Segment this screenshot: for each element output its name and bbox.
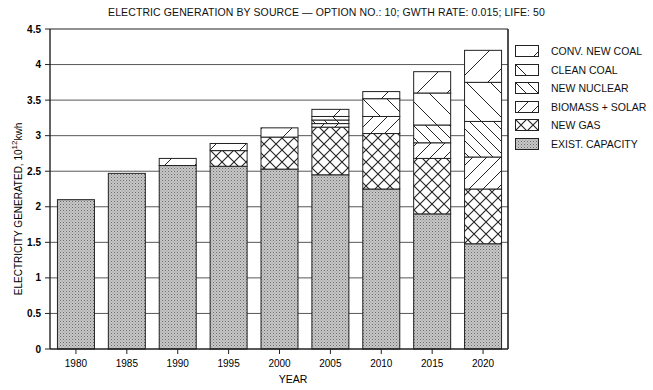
bar-segment <box>465 121 502 157</box>
y-tick-label: 3 <box>35 130 41 141</box>
bar-segment <box>312 124 349 128</box>
bar-segment <box>363 189 400 349</box>
legend-label: CONV. NEW COAL <box>551 45 642 57</box>
bar-segment <box>414 143 451 159</box>
legend-item: CLEAN COAL <box>515 61 653 80</box>
bar-segment <box>57 200 94 349</box>
bar-segment <box>363 99 400 117</box>
x-axis-label: YEAR <box>279 373 308 385</box>
bar-segment <box>414 93 451 125</box>
bar-segment <box>465 50 502 82</box>
bar-segment <box>414 72 451 93</box>
bar-segment <box>465 244 502 349</box>
y-axis-label: ELECTRICITY GENERATED, 1012kwh <box>10 123 24 295</box>
bar-1990 <box>159 158 196 349</box>
x-tick-label: 1995 <box>217 358 240 369</box>
bar-segment <box>210 151 247 167</box>
chart-legend: CONV. NEW COALCLEAN COALNEW NUCLEARBIOMA… <box>515 42 653 153</box>
legend-swatch-icon <box>515 82 539 94</box>
bar-segment <box>108 173 145 349</box>
bar-2000 <box>261 128 298 349</box>
x-tick-label: 1980 <box>65 358 88 369</box>
y-tick-label: 2 <box>35 201 41 212</box>
bar-segment <box>414 158 451 213</box>
bar-segment <box>210 166 247 349</box>
y-tick-label: 0.5 <box>27 308 41 319</box>
legend-swatch-icon <box>515 64 539 76</box>
legend-label: NEW NUCLEAR <box>551 82 629 94</box>
bar-segment <box>261 128 298 137</box>
x-tick-label: 2020 <box>472 358 495 369</box>
bar-segment <box>312 109 349 116</box>
bar-2020 <box>465 50 502 349</box>
bar-segment <box>210 143 247 150</box>
bar-segment <box>159 158 196 165</box>
x-tick-label: 2015 <box>421 358 444 369</box>
bar-segment <box>363 134 400 189</box>
legend-item: EXIST. CAPACITY <box>515 135 653 154</box>
legend-swatch-icon <box>515 101 539 113</box>
y-tick-label: 1 <box>35 272 41 283</box>
bar-segment <box>312 175 349 349</box>
bar-segment <box>363 92 400 99</box>
bar-segment <box>159 166 196 349</box>
x-tick-label: 1985 <box>116 358 139 369</box>
bar-2010 <box>363 92 400 349</box>
bar-segment <box>414 125 451 143</box>
y-tick-label: 3.5 <box>27 95 41 106</box>
legend-label: EXIST. CAPACITY <box>551 138 638 150</box>
legend-swatch-icon <box>515 138 539 150</box>
legend-item: BIOMASS + SOLAR <box>515 98 653 117</box>
bar-segment <box>465 82 502 121</box>
bar-2015 <box>414 72 451 349</box>
bar-segment <box>261 137 298 169</box>
x-tick-label: 2005 <box>319 358 342 369</box>
bar-segment <box>414 214 451 349</box>
y-tick-label: 4 <box>35 59 41 70</box>
x-tick-label: 1990 <box>167 358 190 369</box>
legend-item: CONV. NEW COAL <box>515 42 653 61</box>
y-tick-label: 1.5 <box>27 237 41 248</box>
bar-segment <box>312 120 349 124</box>
legend-label: NEW GAS <box>551 119 601 131</box>
bar-segment <box>465 157 502 189</box>
y-tick-label: 4.5 <box>27 24 41 35</box>
legend-item: NEW GAS <box>515 116 653 135</box>
y-tick-label: 0 <box>35 344 41 355</box>
y-tick-label: 2.5 <box>27 166 41 177</box>
legend-swatch-icon <box>515 45 539 57</box>
bar-1985 <box>108 173 145 349</box>
legend-swatch-icon <box>515 119 539 131</box>
bar-2005 <box>312 109 349 349</box>
bar-segment <box>312 127 349 175</box>
bar-segment <box>465 189 502 244</box>
legend-label: CLEAN COAL <box>551 64 618 76</box>
bar-segment <box>261 169 298 349</box>
bar-1980 <box>57 200 94 349</box>
legend-item: NEW NUCLEAR <box>515 79 653 98</box>
bar-segment <box>363 116 400 133</box>
x-tick-label: 2010 <box>370 358 393 369</box>
legend-label: BIOMASS + SOLAR <box>551 101 646 113</box>
x-tick-label: 2000 <box>268 358 291 369</box>
bar-1995 <box>210 143 247 349</box>
bar-segment <box>312 116 349 120</box>
